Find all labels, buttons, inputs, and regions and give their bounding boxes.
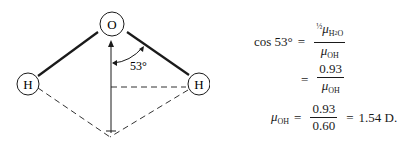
- subscript-oh: OH: [278, 117, 290, 126]
- equals-sign: =: [298, 34, 305, 50]
- numerator: 0.93: [317, 62, 344, 78]
- result-value: 1.54 D.: [359, 110, 398, 126]
- equations: cos 53° = ½μH2O μOH = 0.93 μOH μOH = 0.9…: [0, 0, 403, 144]
- numerator: 0.93: [310, 102, 337, 118]
- fraction: 0.93 0.60: [310, 102, 337, 133]
- subscript-o: O: [337, 29, 343, 38]
- cos-term: cos 53°: [254, 34, 293, 50]
- equation-line-3: μOH = 0.93 0.60 = 1.54 D.: [271, 102, 397, 133]
- denominator: μOH: [321, 43, 339, 63]
- numerator: ½μH2O: [314, 20, 345, 43]
- subscript-oh: OH: [327, 51, 339, 60]
- mu-oh-term: μOH: [271, 109, 289, 126]
- equation-line-2: = 0.93 μOH: [296, 62, 348, 98]
- denominator: 0.60: [312, 118, 335, 133]
- equation-line-1: cos 53° = ½μH2O μOH: [254, 20, 349, 63]
- equals-sign: =: [301, 72, 308, 88]
- equals-sign: =: [294, 110, 301, 126]
- denominator: μOH: [322, 78, 340, 98]
- subscript-oh: OH: [328, 86, 340, 95]
- fraction: 0.93 μOH: [317, 62, 344, 98]
- equals-sign-2: =: [346, 110, 353, 126]
- fraction: ½μH2O μOH: [314, 20, 345, 63]
